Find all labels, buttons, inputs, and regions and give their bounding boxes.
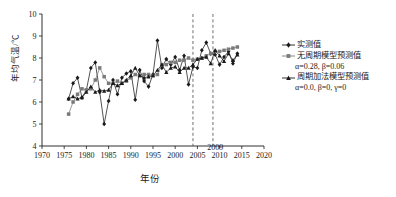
data-point-marker — [222, 49, 226, 53]
data-point-marker — [71, 94, 75, 98]
diamond-marker-icon — [282, 41, 295, 49]
data-point-marker — [67, 112, 71, 116]
data-point-marker — [71, 100, 75, 104]
data-point-marker — [116, 92, 120, 97]
data-point-marker — [231, 46, 235, 50]
x-tick-label: 2015 — [234, 151, 250, 160]
data-point-marker — [165, 63, 169, 67]
x-tick-label: 1975 — [56, 151, 72, 160]
data-point-marker — [209, 52, 213, 56]
legend-label-noncyclic: 无周期模型预测值 — [297, 51, 361, 62]
x-tick-label: 2000 — [167, 151, 183, 160]
x-tick-label: 2010 — [212, 151, 228, 160]
x-tick-label: 1995 — [145, 151, 161, 160]
data-point-marker — [115, 83, 119, 87]
x-tick-label: 1990 — [123, 151, 139, 160]
data-point-marker — [227, 47, 231, 51]
x-tick-label: 2020 — [256, 151, 272, 160]
x-tick-label: 2005 — [189, 151, 205, 160]
x-axis-title: 年份 — [0, 171, 300, 185]
data-point-marker — [94, 78, 98, 82]
data-point-marker — [138, 68, 142, 73]
data-point-marker — [218, 50, 222, 54]
data-point-marker — [102, 75, 106, 79]
data-point-marker — [102, 122, 106, 127]
data-point-marker — [156, 38, 160, 43]
data-point-marker — [107, 82, 111, 86]
data-point-marker — [191, 58, 195, 62]
data-point-marker — [80, 87, 84, 91]
chart-figure: 年均气温/℃ 456789101970197519801985199019952… — [0, 0, 396, 197]
legend-label-observed: 实测值 — [297, 40, 321, 51]
chart-svg: 4567891019701975198019851990199520002005… — [0, 0, 300, 175]
y-tick-label: 8 — [33, 54, 37, 63]
legend-params-noncyclic: α=0.28, β=0.06 — [282, 62, 394, 73]
y-tick-label: 6 — [33, 98, 37, 107]
data-point-marker — [173, 61, 177, 65]
y-tick-label: 9 — [33, 32, 37, 41]
x-tick-label: 1985 — [101, 151, 117, 160]
series-0 — [67, 38, 240, 126]
data-point-marker — [107, 99, 111, 104]
annotation-label-2009: 2009 — [207, 143, 223, 152]
legend-params-cyclic-additive: α=0.0, β=0, γ=0 — [282, 83, 394, 94]
square-marker-icon — [282, 52, 295, 60]
data-point-marker — [182, 54, 186, 59]
data-point-marker — [236, 45, 240, 49]
data-point-marker — [98, 88, 102, 92]
chart-legend: 实测值 无周期模型预测值 α=0.28, β=0.06 周期加法模型预测值 α=… — [282, 40, 394, 94]
y-tick-label: 5 — [33, 120, 37, 129]
data-point-marker — [187, 82, 191, 87]
series-2 — [67, 48, 240, 100]
data-point-marker — [195, 66, 199, 71]
data-point-marker — [98, 66, 102, 70]
data-point-marker — [129, 73, 133, 77]
data-point-marker — [178, 58, 182, 62]
data-point-marker — [133, 66, 137, 70]
legend-label-cyclic-additive: 周期加法模型预测值 — [297, 72, 369, 83]
y-tick-label: 10 — [29, 10, 37, 19]
legend-item-observed[interactable]: 实测值 — [282, 40, 394, 51]
legend-item-cyclic-additive[interactable]: 周期加法模型预测值 — [282, 72, 394, 83]
y-tick-label: 7 — [33, 76, 37, 85]
triangle-marker-icon — [282, 74, 295, 82]
x-tick-label: 1970 — [34, 151, 50, 160]
data-point-marker — [76, 93, 80, 97]
plot-area: 4567891019701975198019851990199520002005… — [0, 0, 300, 175]
data-point-marker — [182, 58, 186, 62]
data-point-marker — [156, 73, 160, 77]
data-point-marker — [173, 65, 177, 69]
y-tick-label: 4 — [33, 142, 37, 151]
data-point-marker — [133, 73, 137, 77]
x-tick-label: 1980 — [78, 151, 94, 160]
legend-item-noncyclic[interactable]: 无周期模型预测值 — [282, 51, 394, 62]
data-point-marker — [169, 61, 173, 65]
data-point-marker — [116, 79, 120, 83]
data-point-marker — [133, 98, 137, 103]
data-point-marker — [187, 56, 191, 60]
